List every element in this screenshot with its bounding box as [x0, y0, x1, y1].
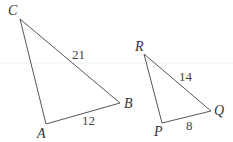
- vertex-label-b: B: [124, 97, 133, 111]
- similar-triangles-diagram: C A B 21 12 R P Q 14 8: [0, 0, 233, 142]
- triangle-abc: [20, 19, 120, 124]
- side-label-ab: 12: [82, 114, 95, 127]
- vertex-label-p: P: [154, 125, 163, 139]
- triangle-pqr: [144, 54, 211, 123]
- side-label-cb: 21: [72, 48, 85, 61]
- vertex-label-c: C: [8, 4, 17, 18]
- triangles-canvas: [0, 0, 233, 142]
- vertex-label-r: R: [135, 40, 144, 54]
- vertex-label-q: Q: [214, 104, 224, 118]
- vertex-label-a: A: [37, 127, 46, 141]
- side-label-pq: 8: [186, 119, 193, 132]
- side-label-rq: 14: [179, 70, 192, 83]
